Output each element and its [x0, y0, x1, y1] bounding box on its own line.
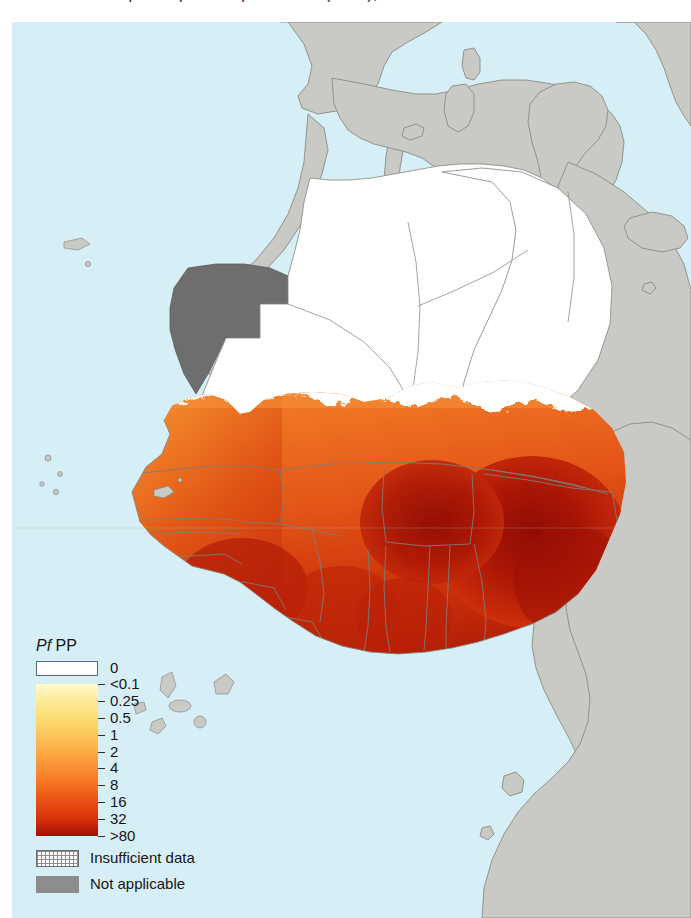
not-applicable-swatch [36, 876, 79, 893]
not-applicable-label: Not applicable [90, 873, 185, 895]
figure-title: Plasmodium falciparum parasite prevalenc… [6, 0, 464, 3]
legend-title: Pf PP [36, 638, 224, 654]
legend-tick-mark [98, 735, 105, 736]
legend-zero-swatch [36, 661, 98, 676]
island-capeverde-3 [40, 482, 44, 486]
island-capeverde-4 [53, 489, 58, 494]
legend-ramp-bar [36, 684, 98, 836]
legend-tick-label: 1 [110, 727, 118, 742]
legend-tick-label: <0.1 [110, 676, 140, 691]
legend-tick-label: 0.25 [110, 693, 139, 708]
legend-extra-categories: Insufficient data Not applicable [34, 848, 224, 900]
legend-tick-mark [98, 768, 105, 769]
island-capeverde-2 [58, 472, 63, 477]
island-madeira-2 [85, 261, 90, 266]
insufficient-data-label: Insufficient data [90, 847, 195, 869]
legend-tick-label: 16 [110, 794, 127, 809]
legend-row-not-applicable: Not applicable [34, 874, 224, 900]
legend-tick-mark [98, 836, 105, 837]
legend-tick-mark [98, 718, 105, 719]
figure-title-strip: Plasmodium falciparum parasite prevalenc… [0, 0, 691, 20]
island-capeverde-1 [45, 455, 51, 461]
legend-tick-label: 8 [110, 777, 118, 792]
legend-title-rest: PP [51, 637, 77, 654]
legend-tick-label: 0.5 [110, 710, 131, 725]
figure-page: Plasmodium falciparum parasite prevalenc… [0, 0, 691, 918]
legend-tick-mark [98, 802, 105, 803]
legend-tick-mark [98, 701, 105, 702]
island-selvagens-2 [178, 478, 182, 482]
legend-tick-mark [98, 819, 105, 820]
legend-tick-label: 4 [110, 760, 118, 775]
legend-row-insufficient-data: Insufficient data [34, 848, 224, 874]
island-corsica [462, 48, 480, 80]
legend-tick-mark [98, 785, 105, 786]
legend-tick-label: 32 [110, 811, 127, 826]
map-legend: Pf PP 0 <0.10.250.512481632>80 Insuffici… [34, 638, 224, 900]
legend-tick-label: >80 [110, 828, 135, 843]
legend-colour-ramp: <0.10.250.512481632>80 [34, 684, 224, 836]
legend-tick-mark [98, 752, 105, 753]
legend-title-italic: Pf [36, 637, 51, 654]
insufficient-data-swatch [36, 850, 79, 867]
legend-tick-label: 2 [110, 744, 118, 759]
legend-tick-mark [98, 684, 105, 685]
